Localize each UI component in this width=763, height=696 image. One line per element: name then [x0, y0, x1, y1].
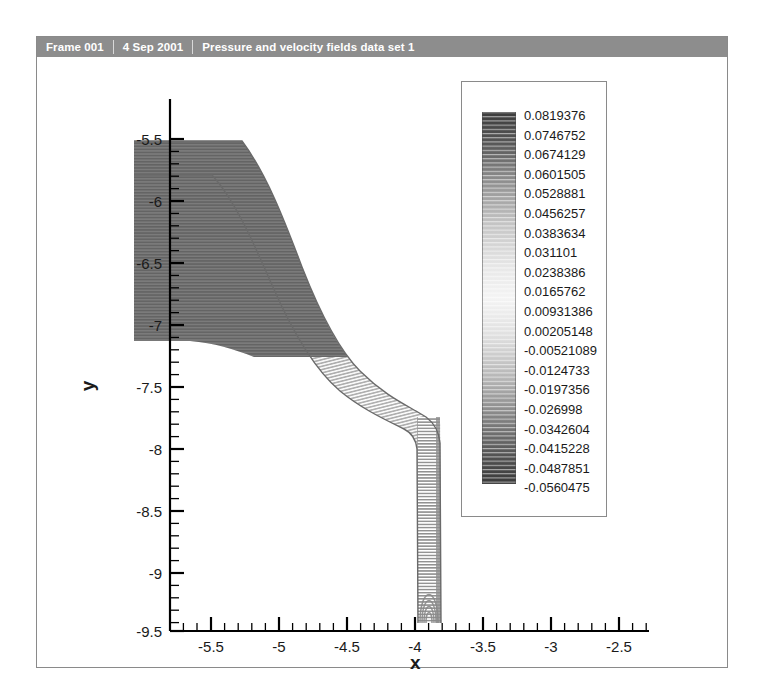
y-tick-label: -8	[149, 441, 162, 458]
title-bar: Frame 001 4 Sep 2001 Pressure and veloci…	[37, 37, 727, 57]
colorbar-legend: 0.0819376 0.0746752 0.0674129 0.0601505 …	[461, 81, 607, 517]
figure-root: Frame 001 4 Sep 2001 Pressure and veloci…	[0, 0, 763, 696]
x-tick-labels: -5.5 -5 -4.5 -4 -3.5 -3 -2.5 -2	[198, 638, 649, 655]
colorbar-label: -0.026998	[524, 400, 606, 420]
y-tick-label: -7	[149, 317, 162, 334]
colorbar-label: 0.00205148	[524, 322, 606, 342]
title-description: Pressure and velocity fields data set 1	[193, 37, 423, 57]
colorbar-label: -0.0197356	[524, 380, 606, 400]
x-tick-label: -5.5	[198, 638, 224, 655]
colorbar-label: 0.0456257	[524, 204, 606, 224]
plot-frame: Frame 001 4 Sep 2001 Pressure and veloci…	[36, 36, 728, 668]
x-tick-label: -3.5	[470, 638, 496, 655]
y-tick-label: -5.5	[136, 131, 162, 148]
colorbar-label: -0.0560475	[524, 478, 606, 498]
y-axis-title: y	[77, 381, 99, 392]
y-tick-label: -6.5	[136, 255, 162, 272]
colorbar-label: -0.0415228	[524, 439, 606, 459]
colorbar-label: 0.0383634	[524, 224, 606, 244]
x-tick-label: -5	[272, 638, 285, 655]
y-tick-label: -6	[149, 193, 162, 210]
colorbar-label: -0.0124733	[524, 361, 606, 381]
colorbar-label: 0.0238386	[524, 263, 606, 283]
colorbar-label: 0.0165762	[524, 282, 606, 302]
colorbar-swatch	[482, 112, 516, 484]
colorbar-label: -0.0342604	[524, 420, 606, 440]
colorbar-label: 0.0819376	[524, 106, 606, 126]
y-tick-label: -7.5	[136, 379, 162, 396]
y-tick-label: -8.5	[136, 503, 162, 520]
title-frame-number: Frame 001	[37, 37, 113, 57]
x-tick-label: -3	[544, 638, 557, 655]
colorbar-label: 0.0674129	[524, 145, 606, 165]
y-tick-label: -9	[149, 565, 162, 582]
colorbar-labels: 0.0819376 0.0746752 0.0674129 0.0601505 …	[524, 106, 606, 498]
colorbar-label: 0.00931386	[524, 302, 606, 322]
colorbar-label: -0.00521089	[524, 341, 606, 361]
colorbar-label: 0.0601505	[524, 165, 606, 185]
x-tick-label: -2.5	[606, 638, 632, 655]
x-tick-label: -4.5	[334, 638, 360, 655]
colorbar-label: 0.031101	[524, 243, 606, 263]
colorbar-label: -0.0487851	[524, 459, 606, 479]
x-axis-ticks	[183, 617, 649, 631]
y-tick-label: -9.5	[136, 623, 162, 640]
x-axis-title: x	[410, 652, 421, 674]
colorbar-label: 0.0528881	[524, 184, 606, 204]
colorbar-label: 0.0746752	[524, 126, 606, 146]
title-date: 4 Sep 2001	[114, 37, 192, 57]
